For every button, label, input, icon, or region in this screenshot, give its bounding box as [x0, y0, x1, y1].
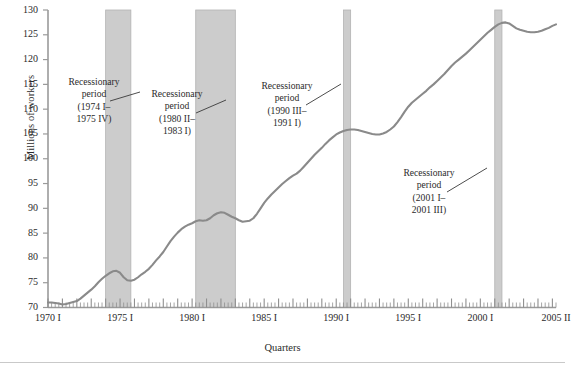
recession-band	[196, 10, 236, 308]
annotation-line-3: (1980 II–	[133, 113, 221, 125]
recession-band	[343, 10, 350, 308]
x-axis-title: Quarters	[0, 342, 565, 353]
annotation-line-1: Recessionary	[50, 76, 138, 88]
annotation-line-2: period	[50, 88, 138, 100]
y-axis-tick-label: 120	[8, 53, 38, 64]
footer-divider	[0, 362, 565, 363]
annotation-line-1: Recessionary	[385, 167, 473, 179]
y-axis-tick-label: 100	[8, 152, 38, 163]
x-axis-tick-label: 1985 I	[234, 312, 294, 323]
y-axis-tick-label: 85	[8, 227, 38, 238]
y-axis-tick-label: 70	[8, 301, 38, 312]
annotation-line-3: (1990 III–	[243, 105, 331, 117]
annotation-recession-1980: Recessionary period (1980 II– 1983 I)	[133, 88, 221, 137]
annotation-line-3: (1974 I–	[50, 101, 138, 113]
x-axis-tick-label: 1980 I	[162, 312, 222, 323]
recession-band	[495, 10, 502, 308]
annotation-line-4: 1991 I)	[243, 117, 331, 129]
annotation-recession-1974: Recessionary period (1974 I– 1975 IV)	[50, 76, 138, 125]
annotation-line-4: 1983 I)	[133, 125, 221, 137]
annotation-line-1: Recessionary	[243, 80, 331, 92]
x-axis-tick-label: 1970 I	[18, 312, 78, 323]
y-axis-tick-label: 130	[8, 4, 38, 15]
annotation-line-3: (2001 I–	[385, 192, 473, 204]
y-axis-tick-label: 75	[8, 276, 38, 287]
y-axis-tick-label: 110	[8, 103, 38, 114]
x-axis-tick-label: 1975 I	[90, 312, 150, 323]
annotation-line-4: 2001 III)	[385, 204, 473, 216]
annotation-line-2: period	[385, 179, 473, 191]
annotation-recession-2001: Recessionary period (2001 I– 2001 III)	[385, 167, 473, 216]
x-axis-tick-label: 1990 I	[306, 312, 366, 323]
y-axis-tick-label: 80	[8, 251, 38, 262]
annotation-recession-1990: Recessionary period (1990 III– 1991 I)	[243, 80, 331, 129]
x-axis-tick-label: 1995 I	[378, 312, 438, 323]
y-axis-tick-label: 105	[8, 127, 38, 138]
x-axis-tick-label: 2000 I	[450, 312, 510, 323]
y-axis-tick-label: 90	[8, 202, 38, 213]
annotation-line-2: period	[133, 100, 221, 112]
y-axis-tick-label: 125	[8, 28, 38, 39]
recession-band	[106, 10, 131, 308]
y-axis-tick-label: 115	[8, 78, 38, 89]
x-axis-tick-label: 2005 II	[526, 312, 575, 323]
annotation-line-4: 1975 IV)	[50, 113, 138, 125]
recession-bands-group	[106, 10, 502, 308]
annotation-line-2: period	[243, 92, 331, 104]
annotation-line-1: Recessionary	[133, 88, 221, 100]
y-axis-tick-label: 95	[8, 177, 38, 188]
